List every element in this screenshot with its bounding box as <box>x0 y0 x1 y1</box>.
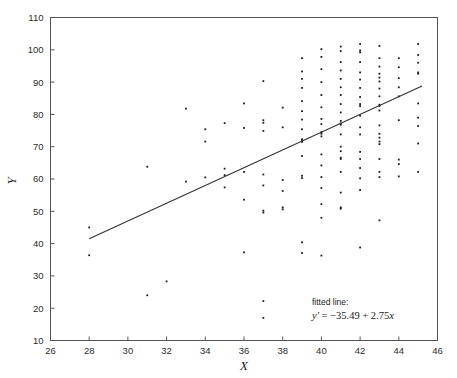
scatter-point <box>398 86 400 88</box>
fitted-line-annotation-label: fitted line: <box>312 297 348 307</box>
scatter-point <box>359 43 361 45</box>
scatter-point <box>321 68 323 70</box>
scatter-point <box>243 127 245 129</box>
scatter-point <box>301 71 303 73</box>
scatter-point <box>379 95 381 97</box>
scatter-point <box>359 167 361 169</box>
scatter-point <box>359 61 361 63</box>
scatter-point <box>379 88 381 90</box>
scatter-point <box>379 124 381 126</box>
scatter-point <box>262 185 264 187</box>
scatter-point <box>282 207 284 209</box>
scatter-point <box>262 174 264 176</box>
y-tick-label: 110 <box>28 12 43 23</box>
x-tick-label: 44 <box>394 345 405 356</box>
scatter-point <box>301 177 303 179</box>
fitted-line-annotation-equation: y′ = −35.49 + 2.75x <box>311 310 394 321</box>
scatter-point <box>204 176 206 178</box>
scatter-point <box>359 158 361 160</box>
scatter-point <box>282 179 284 181</box>
scatter-point <box>379 176 381 178</box>
scatter-point <box>321 135 323 137</box>
scatter-point <box>359 50 361 52</box>
scatter-point <box>301 241 303 243</box>
scatter-point <box>301 87 303 89</box>
x-axis-title: X <box>239 358 249 373</box>
scatter-point <box>301 119 303 121</box>
scatter-point <box>379 219 381 221</box>
scatter-point <box>146 166 148 168</box>
scatter-point <box>301 175 303 177</box>
scatter-point <box>321 48 323 50</box>
scatter-point <box>359 72 361 74</box>
scatter-point <box>262 210 264 212</box>
scatter-point <box>379 171 381 173</box>
scatter-point <box>262 317 264 319</box>
x-tick-label: 34 <box>200 345 211 356</box>
scatter-point <box>340 158 342 160</box>
scatter-point <box>398 176 400 178</box>
scatter-points <box>88 43 419 319</box>
scatter-point <box>340 150 342 152</box>
scatter-point <box>359 51 361 53</box>
scatter-point <box>262 212 264 214</box>
scatter-point <box>321 154 323 156</box>
scatter-point <box>359 79 361 81</box>
scatter-point <box>224 122 226 124</box>
scatter-point <box>321 187 323 189</box>
scatter-point <box>379 66 381 68</box>
scatter-point <box>262 130 264 132</box>
scatter-point <box>282 126 284 128</box>
scatter-point <box>301 155 303 157</box>
scatter-point <box>262 300 264 302</box>
x-tick-label: 38 <box>277 345 288 356</box>
x-axis-tick-labels: 2628303234363840424446 <box>45 345 443 356</box>
x-tick-label: 40 <box>316 345 327 356</box>
y-axis-tick-labels: 102030405060708090100110 <box>28 12 44 346</box>
scatter-point <box>359 177 361 179</box>
scatter-point <box>359 189 361 191</box>
y-tick-label: 40 <box>33 238 44 249</box>
scatter-point <box>398 163 400 165</box>
scatter-point <box>359 103 361 105</box>
y-tick-label: 80 <box>33 109 44 120</box>
scatter-point <box>88 254 90 256</box>
x-tick-label: 32 <box>161 345 172 356</box>
scatter-point <box>321 118 323 120</box>
scatter-point <box>185 108 187 110</box>
scatter-point <box>417 171 419 173</box>
y-tick-label: 90 <box>33 77 44 88</box>
scatter-point <box>379 137 381 139</box>
scatter-point <box>379 81 381 83</box>
scatter-point <box>398 159 400 161</box>
scatter-point <box>379 110 381 112</box>
scatter-point <box>398 66 400 68</box>
scatter-point <box>417 73 419 75</box>
x-tick-label: 36 <box>239 345 250 356</box>
scatter-point <box>359 247 361 249</box>
scatter-point <box>321 81 323 83</box>
scatter-point <box>379 158 381 160</box>
scatter-point <box>282 208 284 210</box>
scatter-point <box>301 252 303 254</box>
scatter-point <box>340 46 342 48</box>
scatter-point <box>321 165 323 167</box>
scatter-point <box>398 77 400 79</box>
scatter-point <box>379 141 381 143</box>
x-tick-label: 42 <box>355 345 366 356</box>
scatter-point <box>340 50 342 52</box>
scatter-point <box>379 73 381 75</box>
scatter-point <box>321 176 323 178</box>
scatter-point <box>340 171 342 173</box>
scatter-point <box>185 181 187 183</box>
y-tick-label: 100 <box>28 44 44 55</box>
scatter-point <box>417 62 419 64</box>
scatter-point <box>243 103 245 105</box>
scatter-point <box>321 123 323 125</box>
scatter-point <box>282 107 284 109</box>
scatter-point <box>417 103 419 105</box>
scatter-point <box>301 78 303 80</box>
y-tick-label: 50 <box>33 206 44 217</box>
x-axis-ticks <box>51 337 438 341</box>
scatter-point <box>243 199 245 201</box>
